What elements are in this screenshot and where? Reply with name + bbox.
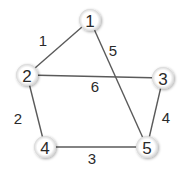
graph-diagram: 156243 12345 <box>0 0 185 175</box>
node-2: 2 <box>16 64 38 86</box>
node-label: 3 <box>158 70 167 89</box>
node-label: 1 <box>85 12 94 31</box>
edge-weight-label: 2 <box>14 110 22 127</box>
graph-svg: 156243 12345 <box>0 0 185 175</box>
node-label: 5 <box>142 139 151 158</box>
edge-weight-label: 5 <box>109 42 117 59</box>
edge-weight-label: 3 <box>88 150 96 167</box>
node-4: 4 <box>34 136 56 158</box>
node-label: 2 <box>22 67 31 86</box>
edge-weight-label: 4 <box>162 109 170 126</box>
node-5: 5 <box>136 136 158 158</box>
edge-weight-label: 6 <box>91 78 99 95</box>
edge-2-4 <box>27 75 45 147</box>
node-1: 1 <box>79 9 101 31</box>
node-label: 4 <box>40 139 49 158</box>
edge-weight-label: 1 <box>39 32 47 49</box>
node-3: 3 <box>152 67 174 89</box>
edge-1-2 <box>27 20 90 75</box>
